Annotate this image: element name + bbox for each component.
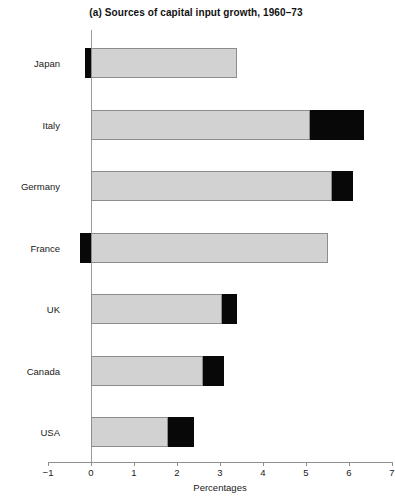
x-axis-tick-label: 3 [217,467,222,478]
x-axis-tick-label: 6 [346,467,351,478]
x-axis-tick-label: 7 [389,467,394,478]
bar-row: Japan [24,34,392,92]
bar-row: UK [24,280,392,338]
bar-track [24,110,392,140]
x-axis-tick [91,462,92,466]
x-axis-tick [349,462,350,466]
x-axis-title: Percentages [48,482,392,493]
x-axis-tick [392,462,393,466]
bar-segment-grey [91,171,332,201]
bar-track [24,48,392,78]
bar-track [24,294,392,324]
bar-segment-black [222,294,237,324]
x-axis-tick-label: 1 [131,467,136,478]
bar-segment-black [80,233,91,263]
plot-area: JapanItalyGermanyFranceUKCanadaUSA [24,30,392,462]
bar-segment-black [332,171,354,201]
bar-row: France [24,219,392,277]
bar-row: Canada [24,342,392,400]
bar-track [24,356,392,386]
bar-segment-grey [91,417,168,447]
x-axis-tick-label: 5 [303,467,308,478]
bar-segment-grey [91,356,203,386]
bar-segment-black [310,110,364,140]
x-axis: −101234567 Percentages [24,462,392,504]
bar-row: Italy [24,96,392,154]
bar-track [24,171,392,201]
x-axis-tick-label: 4 [260,467,265,478]
bar-segment-grey [91,110,310,140]
x-axis-tick [220,462,221,466]
x-axis-tick [48,462,49,466]
bar-track [24,233,392,263]
x-axis-tick [134,462,135,466]
bar-segment-black [168,417,194,447]
bar-segment-grey [91,233,328,263]
bar-segment-black [85,48,91,78]
bar-row: USA [24,403,392,461]
bar-segment-black [203,356,225,386]
bar-row: Germany [24,157,392,215]
bar-segment-grey [91,294,222,324]
x-axis-tick [263,462,264,466]
x-axis-tick [177,462,178,466]
x-axis-tick [306,462,307,466]
chart-title: (a) Sources of capital input growth, 196… [0,7,392,18]
x-axis-tick-label: −1 [43,467,54,478]
bar-segment-grey [91,48,237,78]
x-axis-tick-label: 0 [88,467,93,478]
bar-track [24,417,392,447]
x-axis-tick-label: 2 [174,467,179,478]
